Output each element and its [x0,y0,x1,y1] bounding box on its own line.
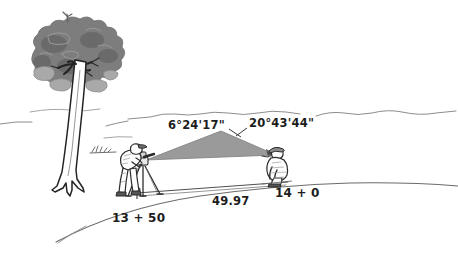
grass-tuft [90,146,116,153]
station-label-right: 14 + 0 [275,186,320,200]
station-label-left: 13 + 50 [112,211,165,225]
tree [32,12,125,196]
angle-label-left: 6°24'17" [168,118,225,132]
angle-right-leader [236,128,247,136]
distance-label: 49.97 [212,194,249,208]
illustration-canvas [0,0,458,257]
angle-label-right: 20°43'44" [249,116,314,130]
surveying-illustration: 6°24'17" 20°43'44" 13 + 50 14 + 0 49.97 [0,0,458,257]
